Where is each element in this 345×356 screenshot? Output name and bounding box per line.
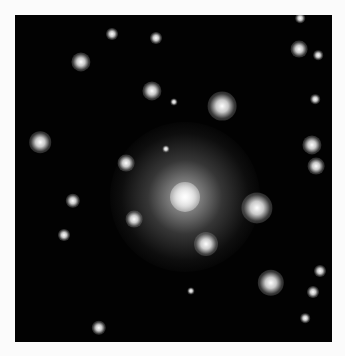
galaxy-source (314, 265, 326, 277)
galaxy-source (66, 194, 80, 208)
galaxy-source (118, 155, 135, 172)
galaxy-source (170, 98, 177, 105)
galaxy-source (142, 81, 161, 100)
galaxy-source (302, 135, 321, 154)
galaxy-cluster-image (15, 15, 332, 342)
galaxy-source (92, 321, 106, 335)
galaxy-source (106, 28, 118, 40)
galaxy-source (307, 286, 319, 298)
galaxy-source (58, 229, 70, 241)
galaxy-source (300, 313, 310, 323)
galaxy-source (150, 32, 162, 44)
galaxy-source (241, 192, 272, 223)
galaxy-source (258, 270, 284, 296)
galaxy-source (71, 52, 90, 71)
galaxy-source (208, 92, 237, 121)
galaxy-source (295, 15, 305, 23)
galaxy-source (308, 158, 325, 175)
galaxy-source (313, 50, 323, 60)
galaxy-source (187, 287, 194, 294)
galaxy-source (310, 94, 320, 104)
galaxy-source (194, 232, 218, 256)
galaxy-source (29, 131, 51, 153)
central-galaxy-core (170, 182, 200, 212)
galaxy-source (291, 41, 308, 58)
galaxy-source (126, 211, 143, 228)
